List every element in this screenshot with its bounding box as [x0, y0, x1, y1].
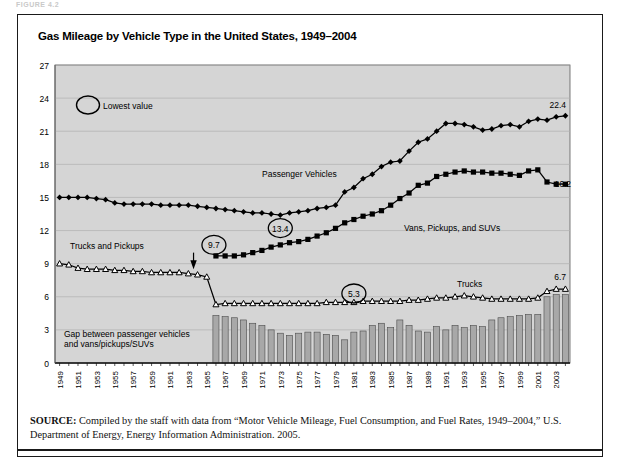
x-axis-tick-label: 1965 — [203, 370, 212, 388]
data-point-marker — [333, 226, 338, 231]
gap-bar — [378, 323, 384, 363]
data-point-marker — [314, 233, 319, 238]
data-point-marker — [250, 250, 255, 255]
x-axis-tick-label: 1993 — [460, 370, 469, 388]
data-point-marker — [508, 172, 513, 177]
gap-bar — [434, 327, 440, 363]
y-axis-tick-label: 6 — [44, 292, 49, 302]
x-axis-tick-label: 1977 — [313, 370, 322, 388]
gap-bar — [470, 325, 476, 363]
figure-page: FIGURE 4.2 Gas Mileage by Vehicle Type i… — [0, 0, 621, 473]
source-label: SOURCE: — [30, 415, 76, 426]
data-point-marker — [342, 220, 347, 225]
x-axis-tick-label: 1983 — [368, 370, 377, 388]
bottom-divider — [18, 449, 602, 451]
x-axis-tick-label: 1997 — [497, 370, 506, 388]
data-point-marker — [480, 169, 485, 174]
x-axis-tick-label: 1989 — [424, 370, 433, 388]
gap-bar — [268, 330, 274, 363]
x-axis-tick-label: 1979 — [332, 370, 341, 388]
x-axis-tick-label: 1959 — [148, 370, 157, 388]
data-point-marker — [232, 253, 237, 258]
x-axis-tick-label: 1969 — [240, 370, 249, 388]
data-point-marker — [287, 240, 292, 245]
data-point-marker — [471, 169, 476, 174]
gap-bar — [406, 325, 412, 363]
x-axis-tick-label: 2003 — [552, 370, 561, 388]
trucks-label: Trucks — [457, 279, 482, 289]
data-point-marker — [452, 169, 457, 174]
page-title: Gas Mileage by Vehicle Type in the Unite… — [38, 30, 356, 42]
gap-bar — [480, 327, 486, 363]
y-axis-tick-label: 12 — [40, 226, 50, 236]
data-point-marker — [223, 253, 228, 258]
data-point-marker — [406, 190, 411, 195]
y-axis-tick-label: 15 — [40, 193, 50, 203]
gap-bar — [415, 331, 421, 363]
gap-bar — [516, 316, 522, 363]
data-point-marker — [517, 173, 522, 178]
gap-bar — [222, 317, 228, 363]
data-point-marker — [351, 217, 356, 222]
gap-bar — [305, 332, 311, 363]
gap-bar — [360, 331, 366, 363]
x-axis-tick-label: 1995 — [479, 370, 488, 388]
gap-bar — [231, 318, 237, 363]
gap-bar — [369, 325, 375, 363]
y-axis-tick-label: 24 — [40, 94, 50, 104]
x-axis-tick-label: 1973 — [277, 370, 286, 388]
gap-bar — [323, 334, 329, 363]
y-axis-tick-label: 18 — [40, 160, 50, 170]
source-note: SOURCE: Compiled by the staff with data … — [30, 414, 590, 441]
y-axis-tick-label: 9 — [44, 259, 49, 269]
x-axis-tick-label: 1951 — [74, 370, 83, 388]
gap-bar — [461, 328, 467, 363]
x-axis-tick-label: 1981 — [350, 370, 359, 388]
data-point-marker — [443, 172, 448, 177]
y-axis-tick-label: 21 — [40, 127, 50, 137]
gap-bar — [526, 314, 532, 363]
x-axis-tick-label: 2001 — [534, 370, 543, 388]
gap-bar — [443, 330, 449, 363]
gap-bar — [535, 314, 541, 363]
data-point-marker — [241, 252, 246, 257]
data-point-marker — [416, 183, 421, 188]
data-point-marker — [434, 174, 439, 179]
x-axis-tick-label: 1987 — [405, 370, 414, 388]
gap-bar — [507, 317, 513, 363]
data-point-marker — [296, 239, 301, 244]
x-axis-tick-label: 1967 — [221, 370, 230, 388]
gap-bar — [240, 320, 246, 363]
x-axis-tick-label: 1999 — [516, 370, 525, 388]
data-point-marker — [489, 171, 494, 176]
gap-bar — [388, 328, 394, 363]
data-point-marker — [388, 203, 393, 208]
x-axis-tick-label: 1971 — [258, 370, 267, 388]
vans-lowest-callout-label: 9.7 — [208, 240, 220, 250]
data-point-marker — [425, 180, 430, 185]
data-point-marker — [278, 242, 283, 247]
gap-bar — [213, 316, 219, 363]
x-axis-tick-label: 1953 — [93, 370, 102, 388]
data-point-marker — [526, 168, 531, 173]
data-point-marker — [397, 196, 402, 201]
data-point-marker — [269, 245, 274, 250]
gap-bar — [544, 297, 550, 363]
data-point-marker — [462, 168, 467, 173]
x-axis-tick-label: 1985 — [387, 370, 396, 388]
data-point-marker — [360, 214, 365, 219]
trucks-and-pickups-label: Trucks and Pickups — [70, 241, 144, 251]
gap-bar — [489, 320, 495, 363]
gap-bar — [286, 335, 292, 363]
gap-bar — [397, 320, 403, 363]
gap-bar — [342, 340, 348, 363]
x-axis-tick-label: 1963 — [185, 370, 194, 388]
gap-bar — [277, 333, 283, 363]
chart-area: 0369121518212427Miles per Gallon19491951… — [38, 58, 586, 388]
x-axis-tick-label: 1975 — [295, 370, 304, 388]
data-point-marker — [370, 211, 375, 216]
data-point-marker — [379, 208, 384, 213]
gap-annotation-line1: Gap between passenger vehicles — [64, 329, 190, 339]
data-point-marker — [324, 230, 329, 235]
y-axis-tick-label: 27 — [40, 61, 50, 71]
